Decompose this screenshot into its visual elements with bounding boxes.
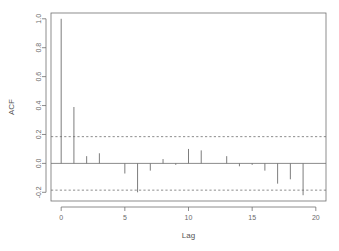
y-tick-label: 0.2 — [36, 130, 43, 140]
x-tick-label: 20 — [312, 214, 320, 221]
y-tick-label: 0.0 — [36, 158, 43, 168]
acf-plot: -0.20.00.20.40.60.81.0 05101520 ACF Lag — [0, 0, 339, 251]
x-tick-label: 10 — [185, 214, 193, 221]
y-axis-title: ACF — [7, 99, 16, 115]
x-tick-label: 5 — [123, 214, 127, 221]
y-tick-label: 0.6 — [36, 72, 43, 82]
x-axis-title: Lag — [182, 231, 195, 240]
x-tick-label: 0 — [59, 214, 63, 221]
y-tick-label: 0.8 — [36, 43, 43, 53]
y-tick-label: 0.4 — [36, 101, 43, 111]
x-tick-label: 15 — [248, 214, 256, 221]
y-tick-label: -0.2 — [36, 186, 43, 198]
y-tick-label: 1.0 — [36, 14, 43, 24]
